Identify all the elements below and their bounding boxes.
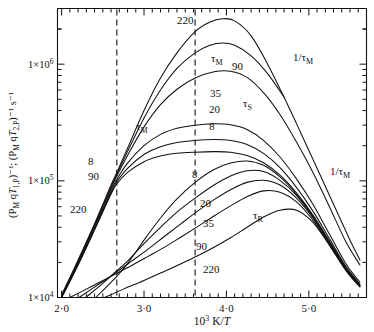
curve-label: 8 [209, 120, 215, 132]
x-axis-title-prefix: 10 [194, 315, 206, 327]
x-tick-label: 2·0 [54, 302, 69, 314]
curve-label: 90 [232, 60, 244, 72]
curve-label: 35 [210, 87, 222, 99]
curve-label: 220 [203, 263, 220, 275]
y-title-p2sup: )⁻¹ [7, 166, 19, 179]
y-title-sep: ; (P [7, 151, 19, 166]
curve-label: 220 [177, 14, 194, 26]
relaxation-chart: 2·03·04·05·0 1×1061×1051×104 220τM901/τM… [0, 0, 374, 332]
curve-label: 35 [203, 217, 215, 229]
x-tick-label: 3·0 [137, 302, 152, 314]
y-title-t1sub: 1,P [12, 178, 21, 188]
x-axis-title-k: K/ [209, 315, 224, 327]
curve-label: 20 [200, 197, 212, 209]
x-tick-label: 5·0 [301, 302, 316, 314]
curve-label: 8 [192, 168, 198, 180]
curve-label: 220 [70, 203, 87, 215]
figure-root: 2·03·04·05·0 1×1061×1051×104 220τM901/τM… [0, 0, 374, 332]
curve-label: 90 [196, 240, 208, 252]
y-title-p4sup: )⁻¹ [7, 108, 19, 121]
y-title-units: s⁻¹ [7, 92, 18, 108]
chart-background [0, 0, 374, 332]
curve-label: 8 [88, 155, 94, 167]
svg-text:103 K/T: 103 K/T [194, 314, 232, 327]
curve-label: 20 [209, 103, 221, 115]
y-title-t2sub: 2,P [12, 121, 21, 131]
curve-label: 90 [88, 170, 100, 182]
y-title-p1: (P [7, 208, 19, 217]
x-tick-label: 4·0 [219, 302, 234, 314]
x-axis-title: 103 K/T [194, 314, 232, 327]
